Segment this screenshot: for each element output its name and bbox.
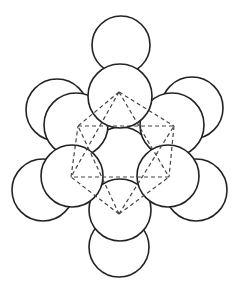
sphere-inner-top: [88, 64, 152, 128]
octahedral-sphere-packing-diagram: [0, 0, 237, 281]
sphere-front-lower-left: [41, 145, 103, 207]
diagram-canvas: Octahedral cluster of close-packed spher…: [0, 0, 237, 281]
spheres-layer: [12, 16, 227, 277]
sphere-front-lower-right: [137, 145, 199, 207]
